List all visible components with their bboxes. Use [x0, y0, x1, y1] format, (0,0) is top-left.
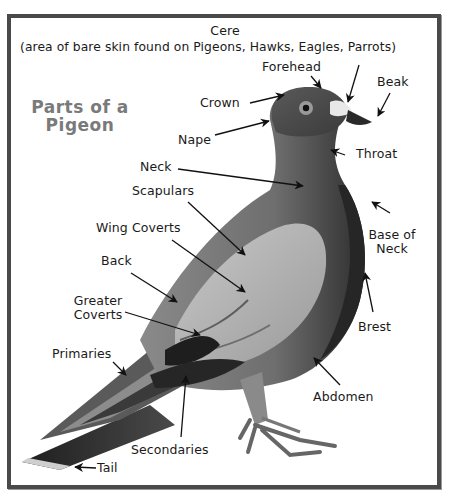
label-abdomen: Abdomen: [313, 390, 374, 404]
label-nape: Nape: [178, 133, 211, 147]
label-base-of-neck-line-1: Base of: [364, 228, 420, 242]
label-forehead: Forehead: [262, 60, 321, 74]
label-back: Back: [101, 254, 132, 268]
pigeon-legs: [240, 372, 335, 455]
diagram-title: Parts of a Pigeon: [30, 98, 130, 134]
label-tail: Tail: [97, 461, 118, 475]
label-crown: Crown: [200, 96, 240, 110]
label-throat: Throat: [356, 147, 397, 161]
label-base-of-neck-line-2: Neck: [364, 242, 420, 256]
label-primaries: Primaries: [52, 347, 111, 361]
label-neck: Neck: [140, 160, 172, 174]
title-line-2: Pigeon: [30, 116, 130, 134]
label-cere: Cere: [200, 24, 250, 38]
label-brest: Brest: [358, 320, 391, 334]
title-line-1: Parts of a: [30, 98, 130, 116]
label-wing-coverts: Wing Coverts: [96, 221, 181, 235]
label-base-of-neck: Base of Neck: [364, 228, 420, 256]
pigeon-head: [271, 87, 372, 137]
label-secondaries: Secondaries: [131, 443, 209, 457]
label-greater-coverts: Greater Coverts: [68, 294, 128, 322]
label-greater-coverts-line-2: Coverts: [68, 308, 128, 322]
label-greater-coverts-line-1: Greater: [68, 294, 128, 308]
label-cere-note: (area of bare skin found on Pigeons, Haw…: [20, 40, 396, 54]
label-beak: Beak: [377, 75, 409, 89]
label-scapulars: Scapulars: [132, 184, 194, 198]
